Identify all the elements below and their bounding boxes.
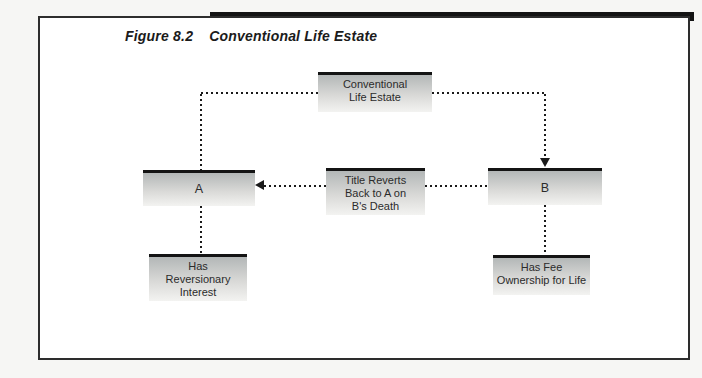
connector-reverts-to-a	[264, 185, 326, 187]
figure-caption: Figure 8.2 Conventional Life Estate	[125, 28, 377, 44]
node-has-reversionary-interest-label: Has Reversionary Interest	[149, 257, 247, 299]
arrow-left-icon	[255, 180, 264, 190]
node-has-fee-ownership: Has Fee Ownership for Life	[493, 255, 590, 295]
node-title-reverts: Title Reverts Back to A on B's Death	[326, 168, 425, 215]
node-title-reverts-label: Title Reverts Back to A on B's Death	[326, 171, 425, 213]
node-has-reversionary-interest: Has Reversionary Interest	[149, 254, 247, 301]
node-b: B	[488, 168, 602, 205]
node-a-label: A	[195, 183, 203, 196]
connector-root-to-b-horizontal	[432, 92, 544, 94]
arrow-down-icon	[540, 158, 550, 167]
connector-root-to-b-vertical	[544, 94, 546, 158]
node-b-label: B	[541, 182, 549, 195]
node-has-fee-ownership-label: Has Fee Ownership for Life	[493, 258, 590, 287]
connector-root-to-a-vertical	[200, 94, 202, 170]
connector-root-to-a-horizontal	[201, 92, 318, 94]
figure-page: Figure 8.2 Conventional Life Estate Conv…	[0, 0, 702, 378]
node-conventional-life-estate-label: Conventional Life Estate	[318, 75, 432, 104]
figure-title: Conventional Life Estate	[209, 28, 377, 44]
figure-label: Figure 8.2	[125, 28, 193, 44]
node-conventional-life-estate: Conventional Life Estate	[318, 72, 432, 112]
connector-a-to-note	[200, 206, 202, 254]
connector-b-to-reverts	[425, 185, 488, 187]
node-a: A	[143, 170, 255, 206]
connector-b-to-note	[544, 205, 546, 255]
